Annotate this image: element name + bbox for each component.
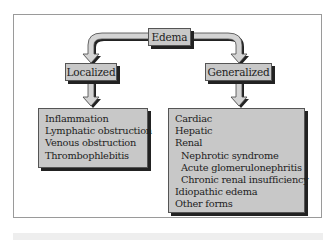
localized-label: Localized (67, 66, 116, 78)
arrow-edema-to-generalized (190, 33, 247, 63)
list-item: Lymphatic obstruction (45, 125, 143, 137)
list-item: Idiopathic edema (175, 186, 300, 198)
generalized-label: Generalized (208, 66, 270, 78)
list-item: Inflammation (45, 113, 143, 125)
list-item: Venous obstruction (45, 137, 143, 149)
arrow-edema-to-localized (83, 33, 150, 63)
localized-causes-list: Inflammation Lymphatic obstruction Venou… (38, 108, 148, 168)
list-subitem: Chronic renal insufficiency (175, 174, 300, 186)
list-item: Other forms (175, 198, 300, 210)
list-item: Renal (175, 137, 300, 149)
edema-node: Edema (148, 28, 191, 46)
list-item: Thrombophlebitis (45, 150, 143, 162)
list-subitem: Nephrotic syndrome (175, 150, 300, 162)
generalized-causes-list: Cardiac Hepatic Renal Nephrotic syndrome… (168, 108, 305, 213)
list-item: Cardiac (175, 113, 300, 125)
list-subitem: Acute glomerulonephritis (175, 162, 300, 174)
list-item: Hepatic (175, 125, 300, 137)
localized-node: Localized (65, 63, 117, 81)
generalized-node: Generalized (205, 63, 272, 81)
edema-label: Edema (152, 31, 188, 43)
